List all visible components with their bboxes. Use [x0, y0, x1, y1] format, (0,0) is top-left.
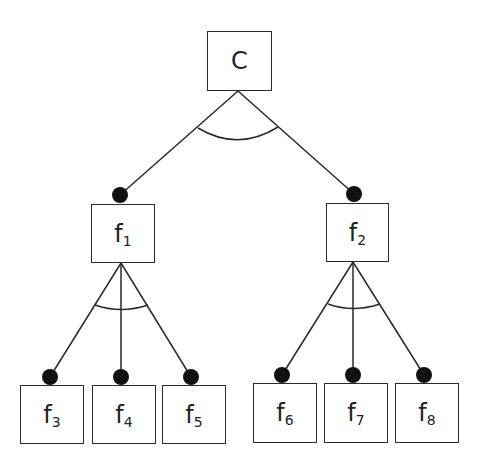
- node-label: f2: [349, 219, 366, 247]
- mandatory-dot-f4: [113, 369, 129, 385]
- node-label: f7: [347, 399, 364, 427]
- node-c: C: [207, 31, 272, 91]
- mandatory-dot-f6: [274, 367, 290, 383]
- and-arc-c: [198, 127, 278, 140]
- edge-f1-f3: [50, 263, 121, 377]
- edge-c-f1: [120, 91, 238, 195]
- node-f8: f8: [395, 383, 459, 443]
- node-label: f1: [114, 220, 131, 248]
- node-f7: f7: [324, 383, 388, 443]
- edge-f2-f8: [353, 262, 424, 375]
- node-label: f5: [185, 401, 202, 429]
- node-f4: f4: [92, 385, 156, 444]
- node-f6: f6: [253, 383, 317, 443]
- edge-c-f2: [238, 91, 354, 194]
- mandatory-dot-f3: [42, 369, 58, 385]
- node-label: f8: [418, 399, 435, 427]
- node-label: f6: [276, 399, 293, 427]
- edge-f2-f6: [282, 262, 353, 375]
- node-label: f3: [43, 401, 60, 429]
- node-f3: f3: [20, 385, 84, 444]
- mandatory-dot-f5: [183, 369, 199, 385]
- mandatory-dot-f7: [345, 367, 361, 383]
- mandatory-dot-f1: [112, 187, 128, 203]
- edge-f1-f5: [121, 263, 191, 377]
- node-f1: f1: [91, 204, 155, 263]
- node-f2: f2: [326, 203, 389, 262]
- mandatory-dot-f8: [416, 367, 432, 383]
- and-arc-f2: [328, 304, 380, 309]
- mandatory-dot-f2: [346, 186, 362, 202]
- node-f5: f5: [162, 385, 226, 444]
- node-label: C: [231, 47, 248, 75]
- node-label: f4: [115, 401, 132, 429]
